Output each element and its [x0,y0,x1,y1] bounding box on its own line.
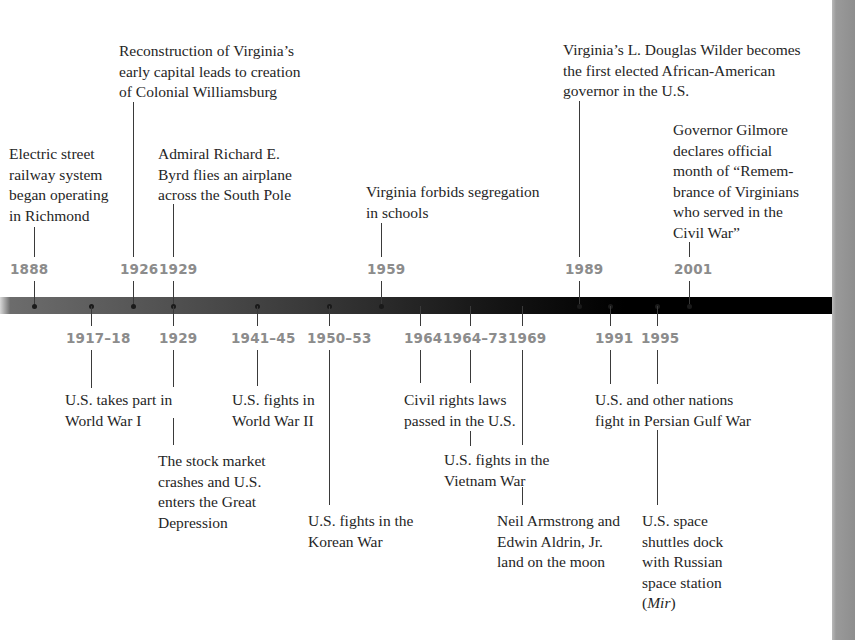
connector-text-1964 [420,350,421,383]
event-text-1888: Electric street railway system began ope… [9,144,108,226]
connector-bar-1964-73 [470,306,471,326]
year-label-1941: 1941–45 [231,330,296,346]
connector-bar-1969 [522,306,523,326]
connector-text-1917 [91,350,92,388]
connector-bar-1991 [610,306,611,326]
connector-text-1926 [133,102,134,257]
connector-text-1941 [257,350,258,386]
event-text-1991: U.S. and other nations fight in Persian … [595,390,751,431]
year-label-1950: 1950–53 [307,330,372,346]
event-text-1964: Civil rights laws passed in the U.S. [404,390,516,431]
year-label-1964: 1964 [404,330,442,346]
timeline-dot-2001 [687,304,692,309]
event-text-1959: Virginia forbids segregation in schools [366,182,540,223]
connector-bar-1941 [257,306,258,326]
timeline-dot-1989 [577,304,582,309]
connector-bar-2001 [689,281,690,304]
connector-text-1888 [34,227,35,257]
year-label-1929b: 1929 [159,330,197,346]
page-gutter [832,0,855,640]
year-label-2001: 2001 [674,261,712,277]
timeline-dot-1959 [379,304,384,309]
timeline-bar [0,297,832,314]
connector-text-1964-73-b [470,431,471,446]
event-text-1929b: The stock market crashes and U.S. enters… [158,451,266,533]
connector-text-1995-b [657,430,658,505]
timeline-dot-1926 [131,304,136,309]
year-label-1964-73: 1964–73 [443,330,508,346]
event-text-1969: Neil Armstrong and Edwin Aldrin, Jr. lan… [497,511,620,573]
connector-bar-1929a [173,281,174,304]
year-label-1917: 1917–18 [66,330,131,346]
year-label-1991: 1991 [595,330,633,346]
connector-bar-1926 [133,281,134,304]
connector-text-1964-73-a [470,350,471,383]
connector-bar-1888 [34,281,35,304]
year-label-1926: 1926 [120,261,158,277]
connector-bar-1950 [329,306,330,326]
event-text-2001: Governor Gilmore declares official month… [673,120,799,243]
event-text-1964-73: U.S. fights in the Vietnam War [444,450,550,491]
connector-bar-1995 [657,306,658,326]
year-label-1989: 1989 [565,261,603,277]
event-text-1929a: Admiral Richard E. Byrd flies an airplan… [158,144,292,206]
event-text-1995: U.S. space shuttles dock with Russian sp… [642,511,723,614]
mir-italic: Mir [647,594,670,611]
year-label-1995: 1995 [641,330,679,346]
event-text-1995-main: U.S. space shuttles dock with Russian sp… [642,512,723,591]
connector-text-2001 [689,242,690,257]
timeline-dot-1888 [32,304,37,309]
event-text-1926: Reconstruction of Virginia’s early capit… [119,41,301,103]
connector-text-1959 [381,223,382,257]
year-label-1929a: 1929 [159,261,197,277]
connector-text-1969-b [522,487,523,505]
connector-bar-1989 [579,281,580,304]
year-label-1969: 1969 [508,330,546,346]
connector-text-1995-a [657,350,658,384]
connector-text-1969-a [522,350,523,445]
connector-text-1929b-a [173,350,174,387]
connector-bar-1917 [91,306,92,326]
event-text-1941: U.S. fights in World War II [232,390,315,431]
connector-bar-1964 [420,306,421,326]
event-text-1989: Virginia’s L. Douglas Wilder becomes the… [563,40,801,102]
year-label-1888: 1888 [10,261,48,277]
year-label-1959: 1959 [367,261,405,277]
connector-text-1991 [610,350,611,384]
connector-text-1929b-b [173,418,174,445]
paren-close: ) [670,594,675,611]
event-text-1917: U.S. takes part in World War I [65,390,172,431]
timeline-bar-fade [0,297,10,314]
connector-text-1989 [579,101,580,257]
event-text-1950: U.S. fights in the Korean War [308,511,414,552]
connector-bar-1959 [381,281,382,304]
connector-bar-1929b [173,306,174,326]
connector-text-1929a [173,204,174,257]
connector-text-1950 [329,350,330,505]
